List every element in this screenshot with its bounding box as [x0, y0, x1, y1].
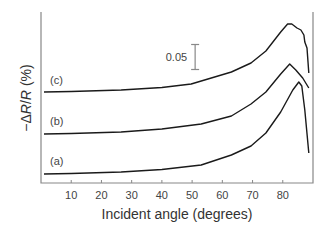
x-tick-label: 80	[277, 189, 289, 201]
curve-label: (a)	[50, 155, 63, 167]
x-tick-label: 40	[156, 189, 168, 201]
curve-label: (b)	[50, 115, 63, 127]
data-curves	[44, 24, 309, 174]
scale-bar-label: 0.05	[166, 51, 187, 63]
x-tick-label: 60	[216, 189, 228, 201]
chart: 1020304050607080 (a)(b)(c) 0.05 Incident…	[0, 0, 331, 232]
curve-labels: (a)(b)(c)	[50, 74, 63, 167]
x-tick-label: 70	[246, 189, 258, 201]
x-tick-label: 30	[126, 189, 138, 201]
x-tick-label: 50	[186, 189, 198, 201]
x-tick-label: 10	[65, 189, 77, 201]
scale-bar: 0.05	[166, 45, 199, 70]
curve-label: (c)	[50, 74, 63, 86]
plot-frame	[41, 12, 313, 183]
y-axis-label: −ΔR/R (%)	[18, 64, 34, 131]
x-axis-label: Incident angle (degrees)	[102, 206, 253, 222]
curve-b	[44, 64, 309, 134]
curve-a	[44, 82, 309, 174]
x-tick-label: 20	[95, 189, 107, 201]
